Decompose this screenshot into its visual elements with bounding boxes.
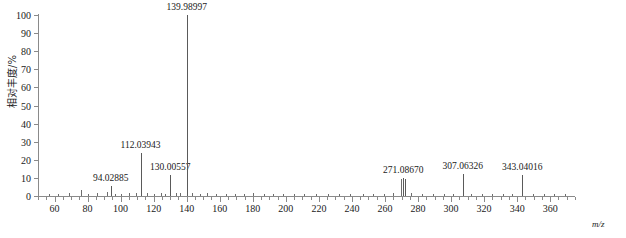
y-tick-label: 100 bbox=[7, 10, 31, 21]
x-tick-minor bbox=[501, 197, 502, 200]
y-tick-mark bbox=[34, 69, 38, 70]
y-tick-mark bbox=[34, 160, 38, 161]
x-tick-major bbox=[550, 197, 551, 202]
peak-line bbox=[192, 193, 193, 196]
peak-line bbox=[433, 194, 434, 196]
x-tick-minor bbox=[567, 197, 568, 200]
y-tick-mark bbox=[34, 178, 38, 179]
y-tick-label: 80 bbox=[7, 46, 31, 57]
x-tick-minor bbox=[203, 197, 204, 200]
x-tick-major bbox=[319, 197, 320, 202]
x-tick-major bbox=[220, 197, 221, 202]
x-tick-label: 160 bbox=[212, 203, 227, 214]
peak-line bbox=[58, 194, 59, 196]
peak-line bbox=[121, 194, 122, 196]
x-tick-major bbox=[55, 197, 56, 202]
x-tick-minor bbox=[402, 197, 403, 200]
x-tick-minor bbox=[137, 197, 138, 200]
x-tick-minor bbox=[129, 197, 130, 200]
x-tick-major bbox=[187, 197, 188, 202]
peak-line bbox=[235, 194, 236, 196]
y-tick-label: 50 bbox=[7, 100, 31, 111]
x-tick-minor bbox=[211, 197, 212, 200]
peak-line bbox=[97, 193, 98, 196]
x-tick-minor bbox=[509, 197, 510, 200]
peak-line bbox=[373, 194, 374, 196]
peak-line bbox=[147, 193, 148, 196]
x-tick-label: 180 bbox=[245, 203, 260, 214]
x-tick-label: 240 bbox=[344, 203, 359, 214]
y-tick-mark bbox=[34, 106, 38, 107]
x-tick-minor bbox=[443, 197, 444, 200]
x-tick-major bbox=[352, 197, 353, 202]
x-tick-minor bbox=[435, 197, 436, 200]
peak-line bbox=[471, 194, 472, 196]
peak-line bbox=[304, 194, 305, 196]
peak-line bbox=[161, 193, 162, 196]
x-tick-minor bbox=[575, 197, 576, 200]
x-tick-minor bbox=[63, 197, 64, 200]
x-tick-minor bbox=[311, 197, 312, 200]
peak-line bbox=[328, 194, 329, 196]
peak-line bbox=[453, 194, 454, 196]
x-tick-minor bbox=[426, 197, 427, 200]
x-tick-minor bbox=[468, 197, 469, 200]
y-tick-label: 0 bbox=[7, 191, 31, 202]
peak-line bbox=[401, 179, 402, 196]
x-axis-line bbox=[38, 196, 575, 197]
x-tick-label: 60 bbox=[50, 203, 60, 214]
x-tick-label: 80 bbox=[83, 203, 93, 214]
x-tick-minor bbox=[525, 197, 526, 200]
x-tick-label: 220 bbox=[311, 203, 326, 214]
y-tick-mark bbox=[34, 33, 38, 34]
peak-line bbox=[512, 194, 513, 196]
x-tick-major bbox=[385, 197, 386, 202]
x-tick-minor bbox=[96, 197, 97, 200]
y-tick-label: 10 bbox=[7, 172, 31, 183]
x-tick-minor bbox=[459, 197, 460, 200]
x-tick-label: 340 bbox=[510, 203, 525, 214]
x-tick-label: 200 bbox=[278, 203, 293, 214]
x-tick-minor bbox=[476, 197, 477, 200]
peak-line-labeled bbox=[141, 153, 142, 196]
peak-line-labeled bbox=[463, 174, 464, 196]
peak-line-isotope bbox=[405, 179, 406, 196]
peak-line bbox=[49, 194, 50, 196]
x-tick-minor bbox=[360, 197, 361, 200]
peak-line bbox=[393, 193, 394, 196]
x-tick-minor bbox=[38, 197, 39, 200]
peak-line bbox=[339, 194, 340, 196]
x-tick-label: 320 bbox=[477, 203, 492, 214]
peak-label: 130.00557 bbox=[150, 162, 190, 172]
y-tick-label: 40 bbox=[7, 118, 31, 129]
x-tick-label: 100 bbox=[113, 203, 128, 214]
peak-line bbox=[444, 194, 445, 196]
x-tick-major bbox=[88, 197, 89, 202]
peak-line bbox=[503, 194, 504, 196]
peak-line bbox=[207, 193, 208, 196]
peak-line bbox=[88, 194, 89, 196]
x-tick-major bbox=[418, 197, 419, 202]
peak-line bbox=[565, 194, 566, 196]
peak-line bbox=[253, 193, 254, 196]
peak-label: 307.06326 bbox=[443, 161, 483, 171]
peak-line bbox=[226, 194, 227, 196]
peak-line-labeled bbox=[111, 186, 112, 196]
y-tick-mark bbox=[34, 124, 38, 125]
x-tick-minor bbox=[327, 197, 328, 200]
peak-line-labeled bbox=[187, 15, 188, 196]
y-tick-mark bbox=[34, 15, 38, 16]
peak-line bbox=[350, 194, 351, 196]
x-tick-label: 140 bbox=[179, 203, 194, 214]
peak-line bbox=[422, 194, 423, 196]
peak-line bbox=[533, 194, 534, 196]
x-tick-label: 300 bbox=[444, 203, 459, 214]
x-tick-minor bbox=[104, 197, 105, 200]
x-tick-minor bbox=[335, 197, 336, 200]
x-tick-minor bbox=[162, 197, 163, 200]
x-tick-minor bbox=[236, 197, 237, 200]
peak-label: 139.98997 bbox=[167, 2, 207, 12]
peak-line bbox=[180, 193, 181, 196]
peak-label: 271.08670 bbox=[383, 165, 423, 175]
peak-line bbox=[492, 194, 493, 196]
